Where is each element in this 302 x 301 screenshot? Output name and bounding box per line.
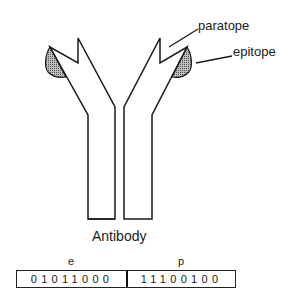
epitope-pointer <box>196 56 232 63</box>
segment-e-label: e <box>64 256 78 267</box>
antibody-caption: Antibody <box>92 229 146 243</box>
left-epitope-region <box>46 47 66 77</box>
segment-p-bits: 11100100 <box>126 270 236 288</box>
left-heavy-chain <box>50 38 115 219</box>
right-epitope-region <box>172 47 191 77</box>
segment-p-label: p <box>174 256 188 267</box>
epitope-label: epitope <box>233 45 276 58</box>
paratope-pointer <box>169 29 198 47</box>
paratope-label: paratope <box>198 19 249 32</box>
segment-e-bits: 01011000 <box>16 270 127 288</box>
right-heavy-chain <box>124 38 187 219</box>
